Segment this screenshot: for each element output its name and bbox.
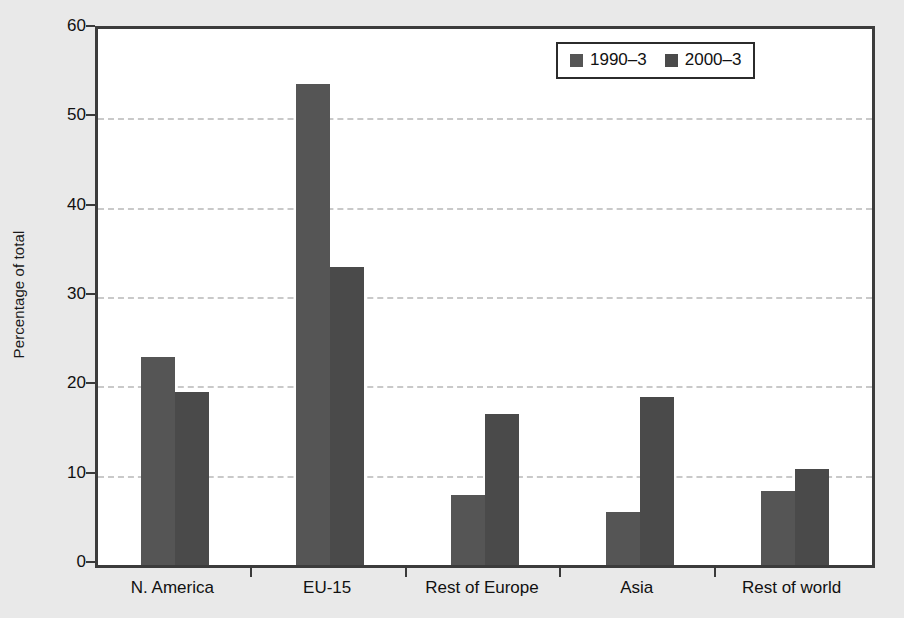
y-axis-tick-labels: 0102030405060	[34, 0, 86, 618]
x-axis-tick-label: N. America	[131, 578, 214, 598]
bar	[175, 392, 209, 565]
y-axis-tick-label: 10	[40, 463, 86, 483]
legend-item: 2000–3	[665, 50, 742, 70]
plot-area	[95, 26, 875, 568]
y-axis-tick-mark	[86, 25, 95, 27]
x-axis-tick-mark	[714, 565, 716, 577]
bar	[330, 267, 364, 565]
y-axis-tick-label: 50	[40, 105, 86, 125]
legend-label: 2000–3	[685, 50, 742, 70]
legend-item: 1990–3	[570, 50, 647, 70]
bar	[606, 512, 640, 565]
legend-label: 1990–3	[590, 50, 647, 70]
bar	[451, 495, 485, 565]
x-axis-tick-label: Rest of Europe	[425, 578, 538, 598]
legend-swatch-icon	[665, 54, 678, 67]
y-axis-tick-mark	[86, 382, 95, 384]
x-axis-tick-label: Asia	[620, 578, 653, 598]
bar	[485, 414, 519, 565]
y-axis-tick-label: 40	[40, 195, 86, 215]
y-axis-tick-mark	[86, 204, 95, 206]
y-axis-tick-label: 20	[40, 373, 86, 393]
figure-canvas: Percentage of total 0102030405060 1990–3…	[0, 0, 904, 618]
legend-swatch-icon	[570, 54, 583, 67]
y-axis-tick-mark	[86, 561, 95, 563]
bar	[640, 397, 674, 565]
y-axis-tick-label: 0	[40, 552, 86, 572]
x-axis-tick-label: Rest of world	[742, 578, 841, 598]
y-axis-tick-mark	[86, 472, 95, 474]
y-axis-tick-mark	[86, 114, 95, 116]
x-axis-tick-label: EU-15	[303, 578, 351, 598]
x-axis-tick-mark	[250, 565, 252, 577]
bar	[296, 84, 330, 566]
bar	[141, 357, 175, 565]
bar	[795, 469, 829, 565]
y-axis-title: Percentage of total	[4, 26, 34, 562]
bar	[761, 491, 795, 565]
y-axis-tick-label: 30	[40, 284, 86, 304]
x-axis-tick-mark	[559, 565, 561, 577]
y-axis-tick-mark	[86, 293, 95, 295]
chart-legend: 1990–3 2000–3	[556, 42, 755, 79]
bar-series-layer	[98, 29, 872, 565]
y-axis-tick-label: 60	[40, 16, 86, 36]
x-axis-tick-mark	[405, 565, 407, 577]
y-axis-title-text: Percentage of total	[11, 230, 28, 358]
